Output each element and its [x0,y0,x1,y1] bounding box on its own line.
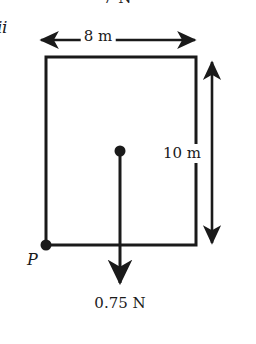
physics-diagram [0,0,256,344]
figure-canvas: 7 N ii 8 m 10 m 0.75 N P [0,0,256,344]
top-force-label: 7 N [103,0,132,6]
width-dimension-label: 8 m [81,29,116,44]
point-p-dot [41,240,52,251]
weight-force-label: 0.75 N [94,296,145,311]
point-p-label: P [27,252,38,268]
list-item-marker: ii [0,19,7,36]
centre-of-mass-dot [115,146,126,157]
height-dimension-label: 10 m [161,144,203,163]
